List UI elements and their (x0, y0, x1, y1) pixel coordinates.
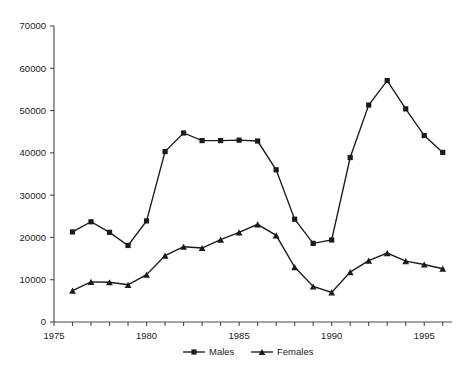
y-tick-label: 20000 (20, 232, 46, 243)
y-axis: 010000200003000040000500006000070000 (20, 20, 54, 327)
data-point-males (218, 138, 223, 143)
x-tick-label: 1985 (229, 330, 250, 341)
y-tick-label: 40000 (20, 147, 46, 158)
chart-canvas: 010000200003000040000500006000070000 197… (0, 0, 470, 370)
y-tick-label: 50000 (20, 105, 46, 116)
data-point-males (440, 150, 445, 155)
data-point-males (88, 219, 93, 224)
data-point-males (144, 218, 149, 223)
legend-item-males[interactable]: Males (183, 346, 235, 357)
legend-marker-males (191, 349, 196, 354)
y-tick-label: 60000 (20, 63, 46, 74)
data-point-males (292, 217, 297, 222)
data-point-males (237, 138, 242, 143)
data-point-males (348, 155, 353, 160)
series-females (69, 221, 446, 295)
data-point-females (236, 229, 243, 235)
y-tick-label: 30000 (20, 190, 46, 201)
data-point-males (199, 138, 204, 143)
data-point-females (162, 253, 169, 259)
data-point-males (181, 130, 186, 135)
data-point-males (255, 138, 260, 143)
data-point-females (69, 288, 76, 294)
data-point-males (329, 237, 334, 242)
x-tick-label: 1975 (43, 330, 64, 341)
data-point-males (385, 78, 390, 83)
data-point-males (125, 243, 130, 248)
y-tick-label: 70000 (20, 20, 46, 31)
legend-label-females: Females (277, 346, 314, 357)
data-point-males (366, 102, 371, 107)
data-point-males (162, 149, 167, 154)
data-point-males (70, 229, 75, 234)
data-point-males (311, 241, 316, 246)
y-tick-label: 0 (41, 316, 46, 327)
data-point-males (403, 106, 408, 111)
x-tick-label: 1980 (136, 330, 157, 341)
series-layer (69, 78, 446, 296)
data-point-males (422, 133, 427, 138)
x-tick-label: 1995 (414, 330, 435, 341)
x-axis: 19751980198519901995 (43, 322, 452, 341)
data-point-females (254, 221, 261, 227)
data-point-females (384, 250, 391, 256)
line-chart: 010000200003000040000500006000070000 197… (0, 0, 470, 370)
legend-label-males: Males (209, 346, 235, 357)
data-point-females (291, 264, 298, 270)
data-point-females (365, 258, 372, 264)
data-point-females (217, 236, 224, 242)
series-line-males (73, 81, 443, 246)
y-tick-label: 10000 (20, 274, 46, 285)
legend-item-females[interactable]: Females (251, 346, 314, 357)
data-point-males (274, 167, 279, 172)
chart-legend: MalesFemales (183, 346, 314, 357)
data-point-males (107, 230, 112, 235)
x-tick-label: 1990 (321, 330, 342, 341)
